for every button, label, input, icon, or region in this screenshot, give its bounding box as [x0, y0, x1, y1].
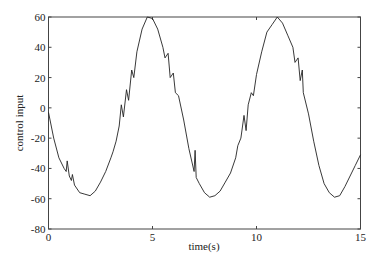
- y-tick-label: -20: [31, 132, 46, 144]
- y-tick-label: -60: [31, 193, 46, 205]
- x-axis-label: time(s): [188, 240, 219, 253]
- plot-area: [49, 17, 361, 229]
- y-tick-label: -40: [31, 162, 46, 174]
- chart: 6040200-20-40-60-80 051015 time(s) contr…: [0, 0, 379, 265]
- y-axis-label: control input: [13, 95, 25, 152]
- y-tick-label: 0: [40, 102, 46, 114]
- y-tick-label: 40: [35, 41, 47, 53]
- x-tick-label: 15: [355, 231, 367, 243]
- y-tick-label: 20: [35, 72, 47, 84]
- y-tick-label: -80: [31, 223, 46, 235]
- y-tick-label: 60: [35, 11, 47, 23]
- x-tick-label: 10: [251, 231, 263, 243]
- x-tick-label: 0: [46, 231, 52, 243]
- x-tick-label: 5: [150, 231, 156, 243]
